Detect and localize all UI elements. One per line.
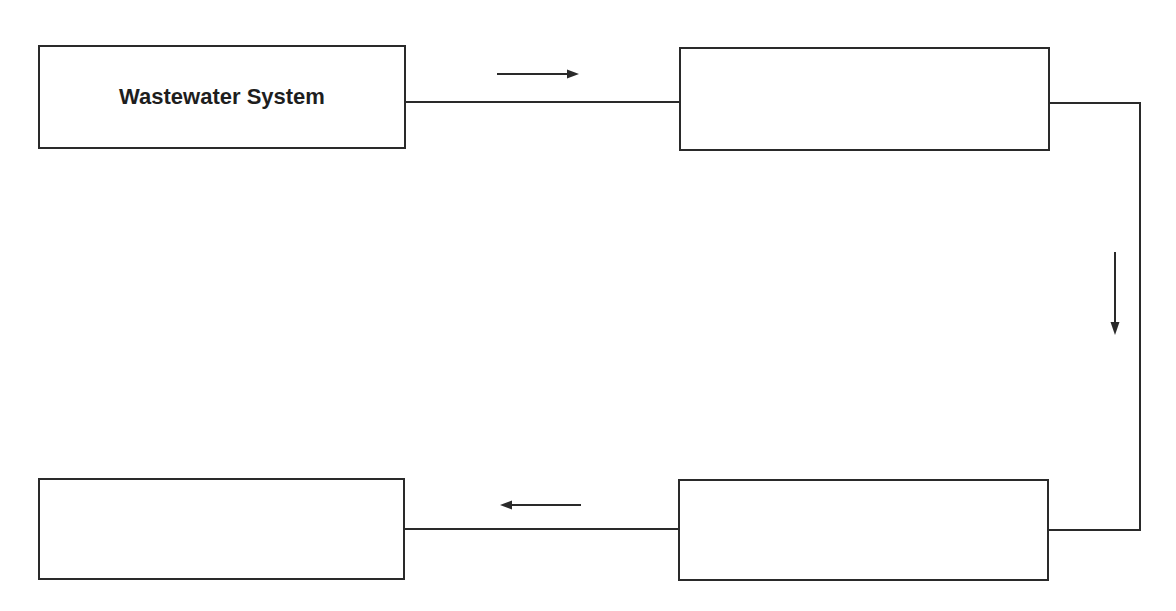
box-4-empty [38,478,405,580]
box-label: Wastewater System [119,84,325,110]
arrow-left-icon [500,501,581,510]
arrow-down-icon [1111,252,1120,335]
box-2-empty [679,47,1050,151]
arrow-right-icon [497,70,579,79]
connector-box2-box3 [1048,103,1140,530]
box-3-empty [678,479,1049,581]
box-wastewater-system: Wastewater System [38,45,406,149]
